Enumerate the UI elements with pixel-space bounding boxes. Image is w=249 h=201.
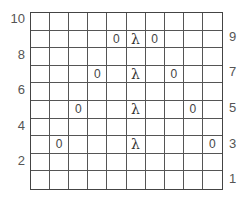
grid-cell (203, 154, 222, 172)
grid-cell (146, 171, 165, 189)
grid-cell (69, 154, 88, 172)
grid-cell (88, 101, 107, 119)
grid-cell (184, 13, 203, 31)
grid-cell (146, 101, 165, 119)
grid-cell (127, 83, 146, 101)
grid: 0λ00λ00λ00λ0 (30, 12, 223, 190)
grid-cell (107, 171, 126, 189)
grid-cell (107, 66, 126, 84)
grid-cell (203, 119, 222, 137)
grid-cell (69, 171, 88, 189)
grid-cell (107, 154, 126, 172)
grid-cell (165, 31, 184, 49)
grid-cell (203, 66, 222, 84)
grid-cell (69, 83, 88, 101)
grid-cell (184, 66, 203, 84)
grid-cell (50, 119, 69, 137)
grid-cell (127, 171, 146, 189)
grid-cell (146, 13, 165, 31)
grid-cell (184, 31, 203, 49)
grid-cell (146, 154, 165, 172)
grid-cell (88, 171, 107, 189)
grid-cell (146, 66, 165, 84)
zero-cell: 0 (203, 136, 222, 154)
grid-cell (69, 13, 88, 31)
grid-cell (184, 154, 203, 172)
grid-cell (146, 48, 165, 66)
grid-cell (203, 31, 222, 49)
grid-cell (31, 101, 50, 119)
grid-cell (31, 31, 50, 49)
lambda-cell: λ (127, 136, 146, 154)
grid-cell (88, 31, 107, 49)
grid-cell (146, 136, 165, 154)
grid-cell (88, 136, 107, 154)
grid-cell (31, 154, 50, 172)
grid-cell (31, 83, 50, 101)
grid-cell (184, 119, 203, 137)
grid-cell (69, 66, 88, 84)
grid-cell (107, 119, 126, 137)
left-row-label: 8 (18, 48, 25, 62)
grid-cell (165, 154, 184, 172)
grid-cell (184, 83, 203, 101)
grid-cell (127, 154, 146, 172)
grid-cell (127, 13, 146, 31)
grid-cell (107, 136, 126, 154)
left-row-label: 6 (18, 83, 25, 97)
grid-cell (69, 119, 88, 137)
grid-cell (31, 136, 50, 154)
grid-cell (127, 119, 146, 137)
lambda-cell: λ (127, 101, 146, 119)
grid-cell (165, 48, 184, 66)
grid-cell (88, 154, 107, 172)
grid-cell (165, 171, 184, 189)
zero-cell: 0 (107, 31, 126, 49)
grid-cell (203, 48, 222, 66)
right-row-label: 3 (229, 137, 236, 151)
grid-cell (107, 101, 126, 119)
grid-cell (31, 119, 50, 137)
zero-cell: 0 (69, 101, 88, 119)
grid-cell (107, 48, 126, 66)
grid-cell (107, 13, 126, 31)
grid-cell (146, 119, 165, 137)
grid-cell (107, 83, 126, 101)
lambda-cell: λ (127, 31, 146, 49)
grid-cell (69, 31, 88, 49)
grid-cell (50, 66, 69, 84)
grid-cell (88, 13, 107, 31)
grid-cell (88, 119, 107, 137)
left-row-label: 4 (18, 119, 25, 133)
grid-cell (69, 48, 88, 66)
left-row-label: 10 (11, 12, 25, 26)
grid-cell (184, 171, 203, 189)
grid-cell (31, 66, 50, 84)
zero-cell: 0 (184, 101, 203, 119)
zero-cell: 0 (88, 66, 107, 84)
right-row-label: 5 (229, 101, 236, 115)
grid-cell (50, 83, 69, 101)
grid-cell (146, 83, 165, 101)
grid-cell (50, 171, 69, 189)
grid-cell (69, 136, 88, 154)
grid-cell (203, 171, 222, 189)
grid-cell (50, 31, 69, 49)
grid-cell (203, 13, 222, 31)
left-row-label: 2 (18, 154, 25, 168)
grid-cell (31, 13, 50, 31)
grid-cell (165, 119, 184, 137)
grid-cell (50, 101, 69, 119)
right-row-label: 1 (229, 172, 236, 186)
grid-cell (165, 101, 184, 119)
grid-cell (31, 48, 50, 66)
grid-cell (165, 83, 184, 101)
grid-cell (50, 13, 69, 31)
zero-cell: 0 (50, 136, 69, 154)
grid-cell (184, 48, 203, 66)
grid-cell (165, 13, 184, 31)
grid-cell (50, 48, 69, 66)
lambda-cell: λ (127, 66, 146, 84)
grid-cell (31, 171, 50, 189)
grid-cell (88, 83, 107, 101)
